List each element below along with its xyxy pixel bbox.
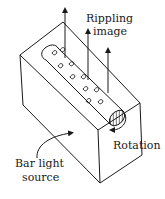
cylinder-end-cap	[106, 107, 127, 128]
label-image: image	[93, 26, 127, 38]
label-rippling: Rippling	[86, 13, 133, 25]
label-rotation: Rotation	[113, 140, 161, 152]
label-source: source	[22, 172, 59, 184]
label-bar-light: Bar light	[15, 158, 64, 170]
